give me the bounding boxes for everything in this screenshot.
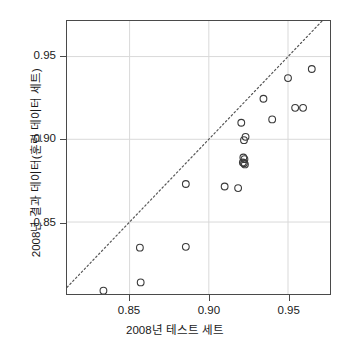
data-point bbox=[100, 287, 107, 294]
y-tick-mark bbox=[60, 223, 66, 224]
data-point bbox=[235, 185, 242, 192]
identity-reference-line bbox=[67, 21, 330, 287]
data-point bbox=[308, 66, 315, 73]
x-axis-label: 2008년 테스트 세트 bbox=[0, 325, 350, 337]
data-point bbox=[221, 183, 228, 190]
data-point bbox=[269, 116, 276, 123]
x-tick-label: 0.85 bbox=[118, 305, 140, 317]
y-tick-label: 0.95 bbox=[8, 50, 56, 62]
data-point bbox=[137, 244, 144, 251]
data-point bbox=[182, 243, 189, 250]
data-point bbox=[300, 104, 307, 111]
x-tick-mark bbox=[129, 295, 130, 301]
x-tick-mark bbox=[209, 295, 210, 301]
data-point bbox=[238, 119, 245, 126]
y-tick-mark bbox=[60, 139, 66, 140]
plot-panel bbox=[66, 20, 331, 295]
y-tick-mark bbox=[60, 56, 66, 57]
y-axis-label: 2008년 결과 데이터(훈련 데이터 세트) bbox=[31, 63, 43, 263]
x-tick-label: 0.90 bbox=[198, 305, 220, 317]
scatter-chart-figure: 0.850.900.950.850.900.95 2008년 테스트 세트 20… bbox=[0, 0, 350, 344]
data-point bbox=[292, 104, 299, 111]
data-point bbox=[137, 279, 144, 286]
data-point bbox=[260, 95, 267, 102]
x-tick-mark bbox=[289, 295, 290, 301]
data-point bbox=[182, 181, 189, 188]
x-tick-label: 0.95 bbox=[277, 305, 299, 317]
plot-canvas bbox=[67, 21, 330, 294]
